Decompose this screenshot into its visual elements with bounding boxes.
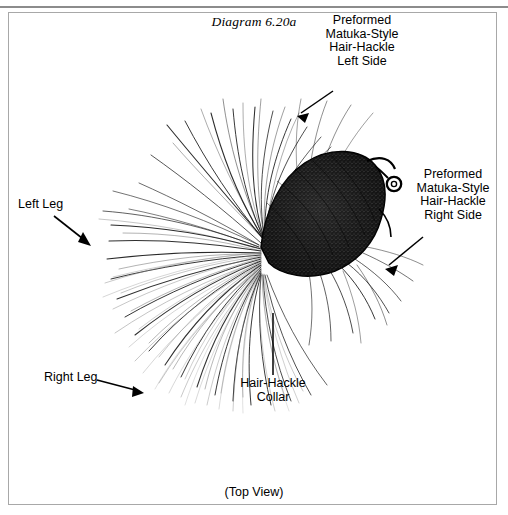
top-rule-divider: [0, 6, 508, 8]
figure-caption: (Top View): [0, 485, 508, 499]
diagram-page: Diagram 6.20a Preformed Matuka-Style Hai…: [0, 0, 508, 515]
fly-body: [261, 152, 401, 276]
callout-leader-right-hackle: [385, 237, 423, 276]
callout-right-leg: Right Leg: [44, 371, 124, 385]
figure-title: Diagram 6.20a: [0, 14, 508, 30]
callout-right-hair-hackle: Preformed Matuka-Style Hair-Hackle Right…: [403, 168, 503, 222]
callout-left-hair-hackle: Preformed Matuka-Style Hair-Hackle Left …: [310, 14, 414, 68]
fly-illustration: [9, 13, 496, 504]
callout-left-leg: Left Leg: [18, 198, 94, 212]
callout-leader-left-leg: [54, 216, 91, 246]
callout-leader-left-hackle: [297, 91, 333, 123]
callout-hair-hackle-collar: Hair-Hackle Collar: [225, 377, 321, 404]
